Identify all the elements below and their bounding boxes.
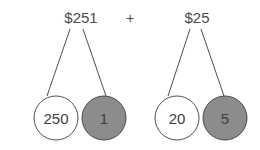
group2-part1-value: 20: [169, 110, 186, 127]
group1-total: $251: [64, 9, 97, 26]
group2-part1-node: 20: [155, 96, 199, 140]
link-group2-part2: [201, 29, 224, 96]
group1-part2-value: 1: [100, 110, 108, 127]
link-group2-part1: [168, 29, 190, 96]
group2-part2-node: 5: [203, 96, 247, 140]
diagram-svg: $251 + $25 250 1 20 5: [0, 0, 260, 150]
link-left-group1-part2: [83, 29, 106, 96]
group1-part2-node: 1: [82, 96, 126, 140]
group2-total: $25: [184, 9, 209, 26]
plus-operator: +: [126, 10, 134, 26]
link-left-group1-part1: [47, 29, 70, 96]
group1-part1-node: 250: [34, 96, 78, 140]
number-bond-diagram: $251 + $25 250 1 20 5: [0, 0, 260, 150]
group1-part1-value: 250: [43, 110, 68, 127]
group2-part2-value: 5: [221, 110, 229, 127]
